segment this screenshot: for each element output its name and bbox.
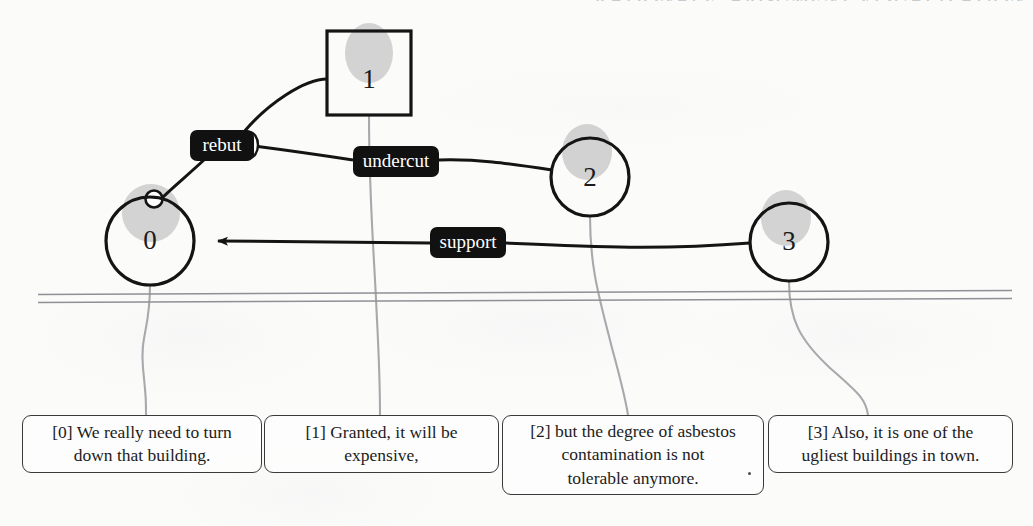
proposition-1-text: [1] Granted, it will be expensive, [305, 421, 457, 468]
connector-node3-to-prop3 [789, 281, 868, 415]
stray-ink-dot [748, 472, 751, 475]
edge-label-undercut[interactable]: undercut [353, 146, 439, 177]
edge-label-support[interactable]: support [430, 227, 506, 258]
rebut-label: rebut [202, 134, 242, 155]
rule-line-bottom [38, 299, 1012, 303]
edge-support-to-node0 [218, 241, 430, 243]
proposition-box-0[interactable]: [0] We really need to turn down that bui… [22, 415, 262, 473]
node-2-label: 2 [583, 162, 597, 192]
edge-node2-to-undercut [439, 160, 552, 170]
proposition-3-text: [3] Also, it is one of the ugliest build… [802, 421, 980, 468]
undercut-label: undercut [363, 150, 430, 171]
support-label: support [440, 231, 498, 252]
rule-line-top [38, 291, 1012, 295]
proposition-box-1[interactable]: [1] Granted, it will be expensive, [264, 415, 499, 473]
connector-node0-to-prop0 [142, 285, 150, 415]
double-rule [38, 291, 1012, 303]
diagram-canvas: RATIONALE: ARGUMENT VISUALIZATION [0, 0, 1033, 526]
node-3-label: 3 [782, 226, 796, 256]
edge-node3-to-support [506, 243, 750, 247]
node-1-label: 1 [362, 64, 376, 94]
proposition-box-3[interactable]: [3] Also, it is one of the ugliest build… [768, 415, 1013, 473]
graph-edges [157, 79, 750, 247]
proposition-0-text: [0] We really need to turn down that bui… [52, 421, 232, 468]
edge-undercut-to-rebut [254, 146, 353, 160]
proposition-box-2[interactable]: [2] but the degree of asbestos contamina… [502, 415, 764, 495]
edge-rebut-to-node0 [157, 159, 205, 203]
edge-node1-to-rebut [243, 79, 327, 133]
edge-label-rebut[interactable]: rebut [190, 130, 258, 161]
node-0-label: 0 [143, 225, 157, 255]
proposition-2-text: [2] but the degree of asbestos contamina… [530, 420, 736, 490]
